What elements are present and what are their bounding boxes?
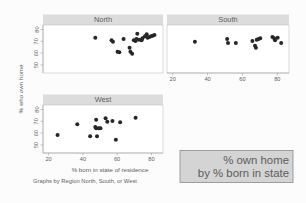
x-axis-title: % born in state of residence [72, 166, 149, 173]
panel-south-plot-area [167, 25, 289, 73]
panel-south-xtick-20: 20 [170, 76, 176, 82]
data-point [122, 37, 126, 41]
data-point [88, 134, 92, 138]
data-point [114, 138, 118, 142]
callout-line-1: % own home [223, 154, 289, 166]
data-point [234, 41, 238, 45]
data-point [117, 50, 121, 54]
panel-west-ytick-70: 70 [34, 118, 40, 124]
panel-west-title: West [95, 95, 112, 104]
y-axis-title: % who own home [17, 64, 24, 113]
data-point [130, 52, 134, 56]
data-point [95, 134, 99, 138]
data-point [118, 120, 122, 124]
panel-north-ytick-60: 60 [34, 50, 40, 56]
panel-north-title: North [94, 15, 112, 24]
panel-south-xtick-40: 40 [204, 76, 210, 82]
data-point [56, 133, 60, 137]
panel-north-plot-area [43, 25, 163, 73]
panel-west-xtick-80: 80 [148, 156, 154, 162]
callout-annotation: % own home by % born in state [180, 151, 293, 183]
panel-south-xtick-80: 80 [274, 76, 280, 82]
panel-north-ytick-70: 70 [34, 38, 40, 44]
panel-south-title: South [218, 15, 237, 24]
data-point [250, 39, 254, 43]
data-point [75, 122, 79, 126]
data-point [279, 41, 283, 45]
data-point [276, 36, 280, 40]
callout-line-2: by % born in state [198, 167, 289, 179]
panel-south: South 20 40 60 80 [167, 15, 289, 83]
data-point [135, 32, 139, 36]
panel-west-xtick-40: 40 [80, 156, 86, 162]
data-point [134, 116, 138, 120]
panel-west-ytick-60: 60 [34, 130, 40, 136]
panel-west-plot-area [43, 105, 163, 153]
data-point [93, 36, 97, 40]
figure-root: North 80 70 60 50 South [0, 0, 306, 203]
data-point [226, 41, 230, 45]
scatter-matrix-figure: North 80 70 60 50 South [0, 0, 306, 203]
data-point [105, 120, 109, 124]
panel-west-xtick-60: 60 [114, 156, 120, 162]
data-point [94, 118, 98, 122]
data-point [111, 40, 115, 44]
data-point [128, 46, 132, 50]
data-point [254, 46, 258, 50]
panel-west: West 80 70 60 50 20 40 6 [34, 95, 164, 163]
panel-west-ytick-50: 50 [34, 142, 40, 148]
data-point [98, 126, 102, 130]
data-point [258, 36, 262, 40]
panel-west-ytick-80: 80 [34, 106, 40, 112]
data-point [152, 33, 156, 37]
panel-west-xtick-20: 20 [45, 156, 51, 162]
panel-north-ytick-50: 50 [34, 62, 40, 68]
panel-north: North 80 70 60 50 [34, 15, 164, 74]
footer-note: Graphs by Region North, South, or West [33, 178, 137, 184]
data-point [225, 37, 229, 41]
data-point [110, 119, 114, 123]
panel-north-ytick-80: 80 [34, 26, 40, 32]
data-point [193, 40, 197, 44]
panel-south-xtick-60: 60 [239, 76, 245, 82]
